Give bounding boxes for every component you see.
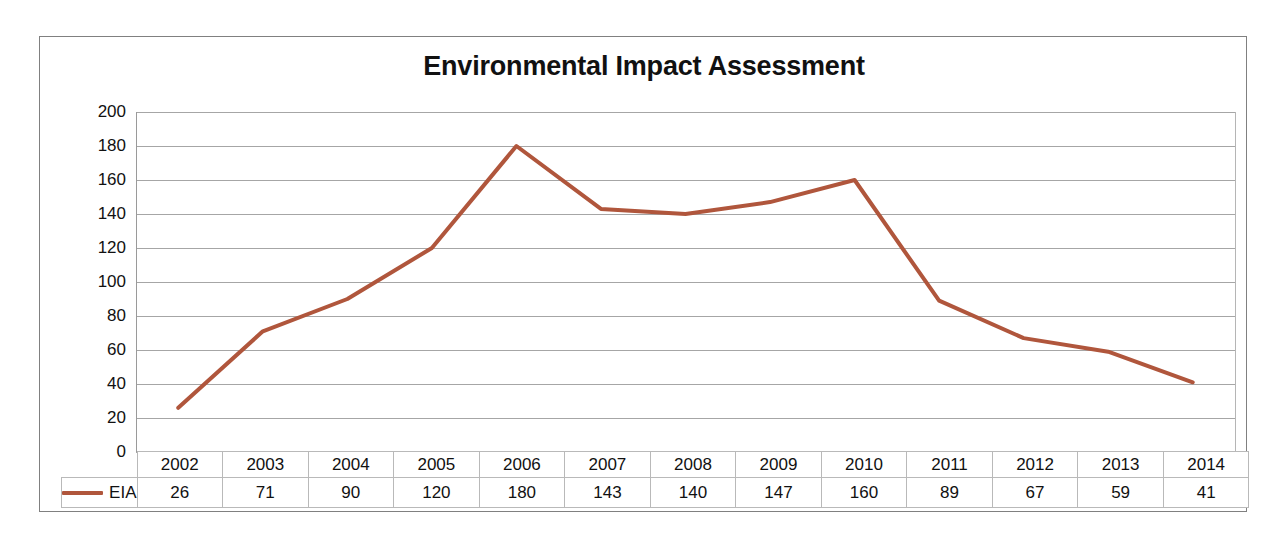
table-cell-year: 2007	[565, 452, 651, 478]
table-cell-year: 2012	[992, 452, 1078, 478]
y-axis-tick-label: 180	[56, 137, 126, 154]
y-axis-tick-label: 100	[56, 273, 126, 290]
table-cell-year: 2011	[907, 452, 993, 478]
table-cell-value: 147	[736, 478, 822, 508]
y-axis-tick-label: 120	[56, 239, 126, 256]
table-cell-value: 26	[137, 478, 223, 508]
legend-key: EIA	[62, 478, 138, 508]
table-cell-year: 2008	[650, 452, 736, 478]
table-cell-year: 2002	[137, 452, 223, 478]
table-cell-value: 89	[907, 478, 993, 508]
y-axis-label-group: 200180160140120100806040200	[54, 112, 126, 452]
table-cell-value: 71	[223, 478, 309, 508]
y-axis-tick-label: 140	[56, 205, 126, 222]
table-cell-year: 2004	[308, 452, 394, 478]
legend-series-label: EIA	[109, 483, 136, 503]
table-cell-value: 143	[565, 478, 651, 508]
y-axis-tick-label: 80	[56, 307, 126, 324]
table-row-years: 2002200320042005200620072008200920102011…	[62, 452, 1249, 478]
table-cell-value: 59	[1078, 478, 1164, 508]
table-cell-value: 67	[992, 478, 1078, 508]
table-cell-value: 41	[1163, 478, 1249, 508]
table-cell-year: 2003	[223, 452, 309, 478]
table-cell-value: 120	[394, 478, 480, 508]
table-cell-year: 2006	[479, 452, 565, 478]
series-line-eia	[136, 112, 1235, 452]
y-axis-tick-label: 160	[56, 171, 126, 188]
table-cell-year: 2010	[821, 452, 907, 478]
table-cell-year: 2013	[1078, 452, 1164, 478]
y-axis-tick-label: 20	[56, 409, 126, 426]
series-polyline-eia	[178, 146, 1192, 408]
table-cell-value: 180	[479, 478, 565, 508]
table-cell-year: 2014	[1163, 452, 1249, 478]
table-cell-value: 160	[821, 478, 907, 508]
y-axis-tick-label: 60	[56, 341, 126, 358]
chart-frame: Environmental Impact Assessment 20018016…	[39, 36, 1247, 512]
line-swatch-icon	[62, 491, 103, 495]
legend-spacer-cell	[62, 452, 138, 478]
table-cell-value: 140	[650, 478, 736, 508]
plot-right-edge	[1235, 112, 1236, 452]
table-cell-year: 2005	[394, 452, 480, 478]
chart-title: Environmental Impact Assessment	[40, 51, 1248, 82]
y-axis-tick-label: 200	[56, 103, 126, 120]
table-cell-year: 2009	[736, 452, 822, 478]
y-axis-tick-label: 40	[56, 375, 126, 392]
table-row-values: EIA 26719012018014314014716089675941	[62, 478, 1249, 508]
table-cell-value: 90	[308, 478, 394, 508]
data-table: 2002200320042005200620072008200920102011…	[61, 451, 1249, 508]
